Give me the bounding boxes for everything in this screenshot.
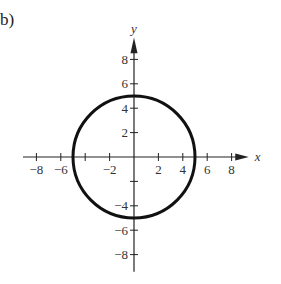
y-axis-arrow-icon (131, 37, 138, 53)
x-axis-arrow-icon (235, 154, 248, 161)
y-tick-label: 4 (122, 101, 129, 116)
x-tick-label: −2 (103, 162, 117, 177)
y-axis-label: y (129, 21, 137, 36)
y-tick-label: −6 (114, 223, 128, 238)
y-tick-label: 2 (122, 125, 129, 140)
x-tick-label: 2 (155, 162, 162, 177)
y-tick-label: 6 (122, 76, 129, 91)
x-tick-label: 4 (180, 162, 187, 177)
x-tick-label: −6 (54, 162, 68, 177)
circle-graph: −8−6−224688642−4−6−8xy (0, 0, 281, 284)
y-tick-label: −8 (114, 247, 128, 262)
y-tick-label: −4 (114, 198, 128, 213)
x-tick-label: −8 (29, 162, 43, 177)
y-tick-label: 8 (122, 52, 129, 67)
x-tick-label: 8 (228, 162, 235, 177)
x-tick-label: 6 (204, 162, 211, 177)
x-axis-label: x (254, 149, 261, 164)
